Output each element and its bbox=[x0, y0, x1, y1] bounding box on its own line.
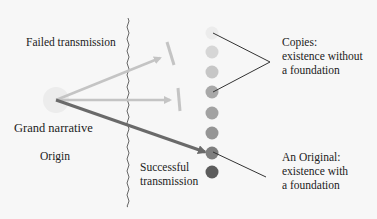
dot-1 bbox=[206, 27, 219, 40]
copies-label: Copies: existence without a foundation bbox=[282, 35, 363, 77]
dot-5 bbox=[206, 107, 219, 120]
wavy-divider-line bbox=[127, 18, 129, 207]
grand-narrative-label: Grand narrative bbox=[14, 121, 93, 135]
dot-8 bbox=[206, 166, 219, 179]
successful-transmission-label: Successful transmission bbox=[140, 160, 198, 188]
dot-column bbox=[206, 27, 219, 179]
dot-4 bbox=[206, 86, 219, 99]
dot-7 bbox=[206, 147, 219, 160]
dot-2 bbox=[206, 46, 219, 59]
diagram-canvas: Failed transmission Grand narrative Orig… bbox=[0, 0, 377, 219]
original-line-1: An Original: bbox=[282, 150, 348, 164]
barrier-lower bbox=[178, 88, 180, 111]
copies-line-2: existence without bbox=[282, 49, 363, 63]
dot-6 bbox=[206, 127, 219, 140]
original-line-2: existence with bbox=[282, 164, 348, 178]
origin-label: Origin bbox=[40, 149, 70, 163]
original-pointer bbox=[213, 152, 266, 177]
copies-line-1: Copies: bbox=[282, 35, 363, 49]
failed-arrow-upper bbox=[56, 58, 160, 100]
successful-line-1: Successful bbox=[140, 160, 198, 174]
copies-line-3: a foundation bbox=[282, 63, 363, 77]
copies-pointer-bottom bbox=[213, 62, 270, 92]
successful-line-2: transmission bbox=[140, 174, 198, 188]
failed-transmission-label: Failed transmission bbox=[26, 35, 116, 49]
original-line-3: a foundation bbox=[282, 178, 348, 192]
dot-3 bbox=[206, 66, 219, 79]
copies-pointer-top bbox=[213, 33, 270, 62]
barrier-upper bbox=[167, 42, 174, 65]
original-label: An Original: existence with a foundation bbox=[282, 150, 348, 192]
